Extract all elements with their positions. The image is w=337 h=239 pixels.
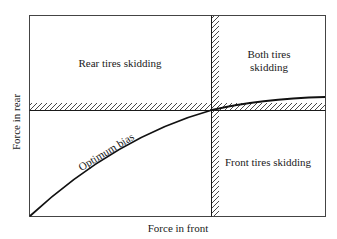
region-front-skidding-label: Front tires skidding bbox=[225, 156, 312, 168]
y-axis-label: Force in rear bbox=[10, 94, 22, 151]
brake-bias-diagram: Rear tires skidding Both tires skidding … bbox=[0, 0, 337, 239]
region-both-skidding-label-line1: Both tires bbox=[247, 48, 290, 60]
x-axis-label: Force in front bbox=[148, 222, 208, 234]
plot-frame bbox=[30, 16, 326, 217]
region-rear-skidding-label: Rear tires skidding bbox=[78, 57, 162, 69]
region-both-skidding-label-line2: skidding bbox=[250, 61, 288, 73]
front-limit-hatch bbox=[212, 16, 219, 216]
rear-limit-hatch bbox=[30, 103, 325, 110]
optimum-bias-label: Optimum bias bbox=[76, 130, 136, 173]
